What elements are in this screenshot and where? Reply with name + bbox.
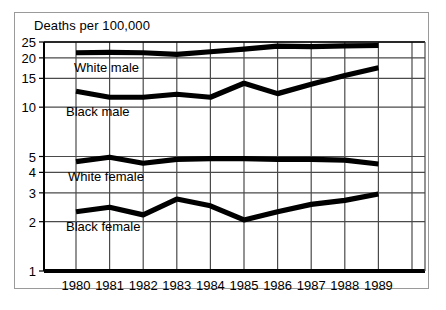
y-axis-tick-label: 10 xyxy=(10,100,36,115)
series-label-black-female: Black female xyxy=(66,219,140,234)
series-label-black-male: Black male xyxy=(66,104,130,119)
y-axis-tick-label: 2 xyxy=(10,214,36,229)
y-axis-tick-label: 4 xyxy=(10,165,36,180)
y-axis-tick-label: 3 xyxy=(10,185,36,200)
x-axis-tick-label: 1989 xyxy=(356,278,400,293)
y-axis-tick-label: 25 xyxy=(10,35,36,50)
y-axis-tick-label: 5 xyxy=(10,149,36,164)
series-label-white-female: White female xyxy=(68,169,144,184)
y-axis-tick-label: 20 xyxy=(10,50,36,65)
chart-title: Deaths per 100,000 xyxy=(34,18,150,33)
series-label-white-male: White male xyxy=(74,60,139,75)
chart-frame xyxy=(14,12,429,289)
chart-figure: Deaths per 100,000 2520151054321 1980198… xyxy=(0,0,446,310)
y-axis-tick-label: 1 xyxy=(10,264,36,279)
y-axis-tick-label: 15 xyxy=(10,71,36,86)
